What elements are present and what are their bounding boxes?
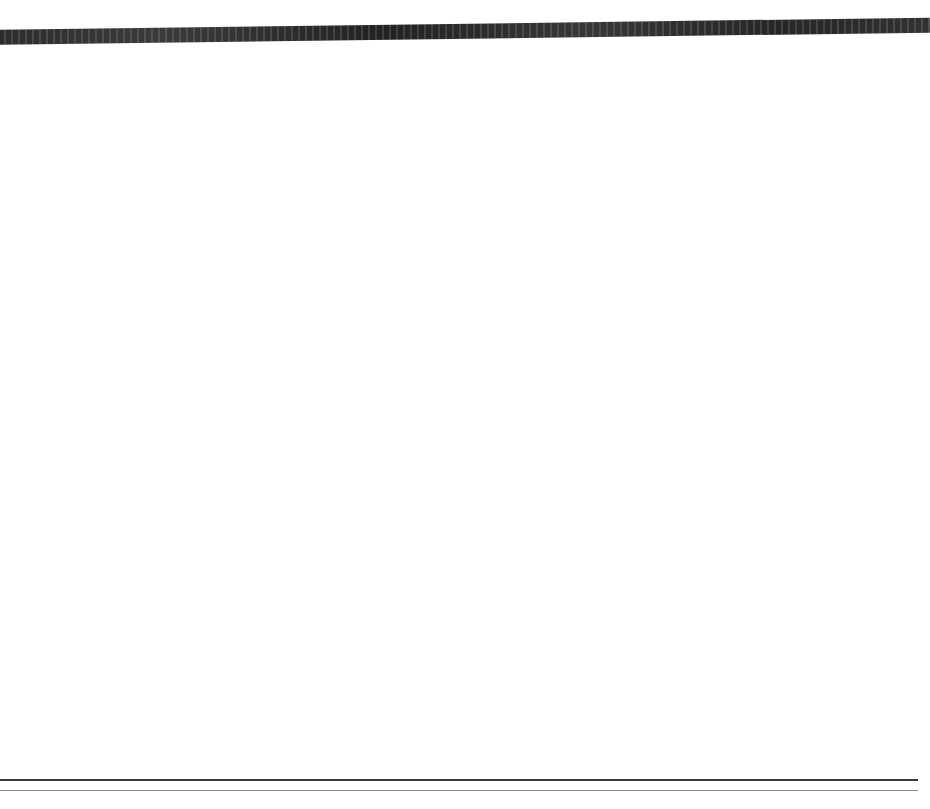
page-rule-bottom	[0, 790, 918, 791]
caption-fragment	[0, 799, 918, 809]
page-rule-top	[0, 779, 918, 781]
